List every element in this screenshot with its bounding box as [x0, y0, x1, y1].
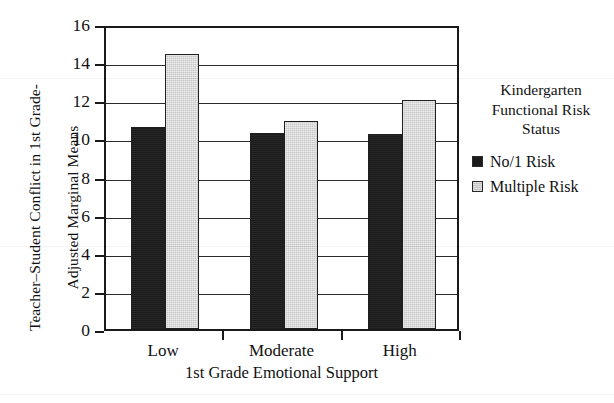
y-axis-tick-mark [95, 293, 104, 295]
legend: Kindergarten Functional Risk Status No/1… [468, 80, 614, 202]
bar-high-multiple-risk [402, 100, 436, 329]
y-axis-tick-label: 8 [81, 170, 90, 187]
y-axis-tick-label: 0 [81, 322, 90, 339]
bar-moderate-multiple-risk [284, 121, 318, 329]
legend-title: Kindergarten Functional Risk Status [468, 80, 614, 139]
legend-title-line-3: Status [468, 119, 614, 139]
legend-swatch-multiple-risk [472, 181, 483, 192]
y-axis-tick-mark [95, 331, 104, 333]
y-axis-tick-mark [95, 179, 104, 181]
y-axis-tick-label: 6 [81, 208, 90, 225]
x-axis-label-low: Low [104, 341, 222, 360]
legend-title-line-1: Kindergarten [468, 80, 614, 100]
bar-low-multiple-risk [165, 54, 199, 329]
y-axis-tick-label: 16 [73, 17, 91, 34]
bar-high-no1-risk [368, 134, 402, 329]
bar-chart-figure: Teacher–Student Conflict in 1st Grade- A… [0, 0, 614, 403]
legend-items: No/1 RiskMultiple Risk [468, 152, 614, 196]
bar-low-no1-risk [131, 127, 165, 329]
x-axis-tick-mark [222, 331, 224, 340]
y-axis-tick-label: 14 [73, 55, 91, 72]
y-axis-ticks: 1614121086420 [0, 0, 104, 331]
y-axis-tick-mark [95, 26, 104, 28]
x-axis-label-high: High [341, 341, 459, 360]
y-axis-tick-mark [95, 255, 104, 257]
legend-item: No/1 Risk [472, 152, 614, 171]
x-axis-tick-mark [459, 331, 461, 340]
legend-swatch-no1-risk [472, 156, 483, 167]
legend-item: Multiple Risk [472, 177, 614, 196]
x-axis-title: 1st Grade Emotional Support [104, 363, 459, 382]
bar-moderate-no1-risk [250, 133, 284, 329]
legend-title-line-2: Functional Risk [468, 100, 614, 120]
y-axis-tick-mark [95, 64, 104, 66]
plot-area [104, 26, 459, 331]
y-axis-tick-label: 12 [73, 93, 91, 110]
y-axis-tick-mark [95, 102, 104, 104]
y-axis-tick-mark [95, 217, 104, 219]
x-axis-tick-mark [341, 331, 343, 340]
y-axis-tick-label: 10 [73, 131, 91, 148]
legend-item-label: Multiple Risk [490, 177, 578, 196]
y-axis-tick-label: 4 [81, 246, 90, 263]
legend-item-label: No/1 Risk [490, 152, 555, 171]
y-axis-tick-label: 2 [81, 284, 90, 301]
y-axis-tick-mark [95, 140, 104, 142]
x-axis-label-moderate: Moderate [222, 341, 340, 360]
gridline [106, 65, 457, 66]
